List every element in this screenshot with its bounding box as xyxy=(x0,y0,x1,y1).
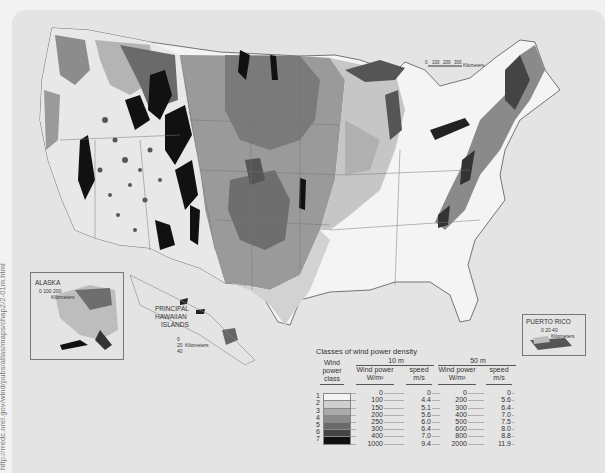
legend-title: Classes of wind power density xyxy=(316,348,596,356)
legend-class-header-2: power xyxy=(318,367,346,375)
legend: Classes of wind power density Wind power… xyxy=(316,348,596,449)
svg-text:200: 200 xyxy=(443,60,451,65)
hawaii-scale-unit: Kilometers xyxy=(185,342,209,348)
legend-swatch-class-7 xyxy=(323,436,351,445)
legend-class-header-1: Wind xyxy=(318,359,346,367)
legend-class-number: 7 xyxy=(316,435,320,443)
source-url[interactable]: http://rredc.nrel.gov/wind/pubs/atlas/ma… xyxy=(0,263,7,470)
legend-sp10-unit: m/s xyxy=(404,374,434,382)
legend-sp50-label: speed xyxy=(484,366,514,374)
legend-value-sp10: 9.4 xyxy=(404,440,432,448)
svg-text:Kilometers: Kilometers xyxy=(463,63,485,68)
alaska-inset: ALASKA 0 100 200 Kilometers xyxy=(30,272,124,360)
legend-value-wp50: 2000 xyxy=(440,440,468,448)
svg-text:0: 0 xyxy=(425,60,428,65)
hawaii-title-2: HAWAIIAN xyxy=(155,313,187,320)
scale-bar: 0 100 200 300 Kilometers xyxy=(425,60,485,68)
legend-50m-header: 50 m xyxy=(438,357,518,365)
alaska-title: ALASKA xyxy=(35,279,60,286)
svg-text:300: 300 xyxy=(454,60,462,65)
hawaii-title-3: ISLANDS xyxy=(161,321,189,328)
legend-value-sp50: 11.9 xyxy=(484,440,512,448)
legend-wp50-label: Wind power xyxy=(436,366,478,374)
legend-rows: 123456700001004.42005.61505.13006.42005.… xyxy=(316,389,596,449)
legend-value-wp10: 1000 xyxy=(356,440,384,448)
legend-10m-header: 10 m xyxy=(356,357,436,365)
puerto-rico-title: PUERTO RICO xyxy=(526,318,571,325)
legend-sp50-unit: m/s xyxy=(484,374,514,382)
legend-wp50-unit: W/m² xyxy=(436,374,478,382)
svg-text:100: 100 xyxy=(432,60,440,65)
hawaii-title-1: PRINCIPAL xyxy=(155,305,189,312)
hawaii-scale: 0 20 40 xyxy=(177,336,183,354)
legend-sp10-label: speed xyxy=(404,366,434,374)
legend-wp10-unit: W/m² xyxy=(354,374,396,382)
puerto-rico-scale-unit: Kilometers xyxy=(551,333,575,339)
legend-class-header-3: class xyxy=(318,375,346,383)
legend-wp10-label: Wind power xyxy=(354,366,396,374)
alaska-scale-unit: Kilometers xyxy=(51,294,75,300)
